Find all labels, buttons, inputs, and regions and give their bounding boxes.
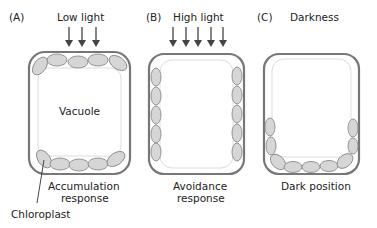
chloroplast bbox=[232, 67, 242, 85]
chloroplast bbox=[266, 137, 276, 155]
arrow-down-icon bbox=[169, 27, 177, 47]
panel-c-letter: (C) bbox=[257, 11, 273, 23]
chloroplast bbox=[232, 143, 242, 161]
panel-c: (C) Darkness Dark position bbox=[257, 11, 359, 192]
chloroplast bbox=[265, 118, 275, 136]
panel-b-condition: High light bbox=[173, 11, 224, 23]
chloroplast bbox=[348, 119, 358, 137]
panel-b-letter: (B) bbox=[146, 11, 161, 23]
chloroplast bbox=[88, 54, 108, 66]
chloroplast bbox=[232, 86, 242, 104]
chloroplast bbox=[151, 143, 161, 161]
cell-c bbox=[264, 54, 359, 174]
chloroplast bbox=[88, 158, 108, 170]
chloroplast bbox=[151, 106, 161, 124]
chloroplast bbox=[320, 161, 338, 172]
panel-a-response-line1: Accumulation bbox=[48, 180, 120, 192]
chloroplast bbox=[69, 159, 89, 171]
cell-a: Vacuole bbox=[29, 52, 130, 174]
panel-a-letter: (A) bbox=[9, 11, 24, 23]
light-arrows-high bbox=[169, 27, 227, 47]
arrow-down-icon bbox=[219, 27, 227, 47]
chloroplast bbox=[151, 125, 161, 143]
light-arrows-low bbox=[65, 27, 100, 47]
arrow-down-icon bbox=[78, 27, 86, 47]
arrow-down-icon bbox=[194, 27, 202, 47]
chloroplast bbox=[232, 105, 242, 123]
panel-a: (A) Low light bbox=[9, 11, 130, 220]
panel-b: (B) High light bbox=[146, 11, 244, 204]
panel-a-response-line2: response bbox=[61, 192, 109, 204]
chloroplast bbox=[302, 162, 320, 173]
chloroplast bbox=[68, 56, 88, 68]
panel-c-condition: Darkness bbox=[290, 11, 339, 23]
chloroplast bbox=[348, 138, 358, 154]
chloroplast-movement-diagram: (A) Low light bbox=[0, 0, 377, 228]
arrow-down-icon bbox=[207, 27, 215, 47]
chloroplast bbox=[47, 54, 67, 66]
panel-b-response-line1: Avoidance bbox=[173, 180, 227, 192]
arrow-down-icon bbox=[92, 27, 100, 47]
chloroplast-label: Chloroplast bbox=[11, 208, 70, 220]
chloroplast bbox=[151, 68, 161, 86]
panel-c-response-line1: Dark position bbox=[281, 180, 351, 192]
arrow-down-icon bbox=[182, 27, 190, 47]
panel-a-condition: Low light bbox=[57, 11, 104, 23]
chloroplast bbox=[151, 87, 161, 105]
chloroplast bbox=[232, 124, 242, 142]
chloroplast bbox=[50, 158, 70, 170]
cell-wall bbox=[149, 54, 244, 174]
vacuole-label: Vacuole bbox=[59, 105, 100, 117]
chloroplast bbox=[284, 162, 302, 173]
cell-b bbox=[149, 54, 244, 174]
arrow-down-icon bbox=[65, 27, 73, 47]
panel-b-response-line2: response bbox=[177, 192, 225, 204]
